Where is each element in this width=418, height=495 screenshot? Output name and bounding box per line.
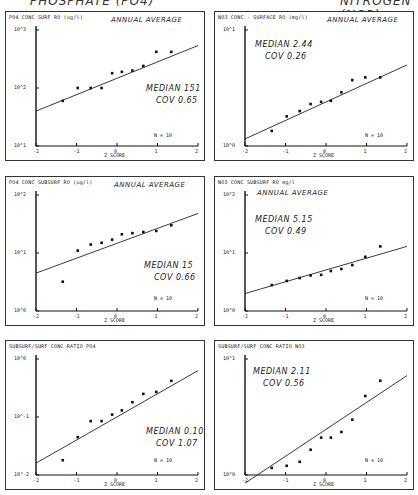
n-label: N = 10 <box>154 132 172 138</box>
x-axis-title: Z SCORE <box>313 481 334 487</box>
y-tick-label: 10^0 <box>14 355 26 361</box>
x-tick-label: 1 <box>364 313 367 319</box>
data-point <box>379 245 382 248</box>
chart-panel-6: SUBSURF/SURF CONC RATIO NO3MEDIAN 2.11CO… <box>214 340 414 490</box>
data-point <box>330 270 333 273</box>
n-label: N = 10 <box>365 457 383 463</box>
x-tick-label: -2 <box>33 477 39 483</box>
data-point <box>320 101 323 104</box>
data-point <box>351 418 354 421</box>
data-point <box>76 436 79 439</box>
y-tick-label: 10^3 <box>14 26 26 32</box>
x-axis-title: Z SCORE <box>313 152 334 158</box>
x-axis-title: Z SCORE <box>313 317 334 323</box>
x-tick-label: 2 <box>195 313 198 319</box>
x-tick-label: 2 <box>404 313 407 319</box>
data-point <box>89 243 92 246</box>
n-label: N = 10 <box>154 295 172 301</box>
x-tick-label: -2 <box>242 313 248 319</box>
data-point <box>170 380 173 383</box>
data-point <box>270 467 273 470</box>
y-tick-label: 10^0 <box>14 307 26 313</box>
data-point <box>170 224 173 227</box>
y-tick-label: 10^1 <box>14 249 26 255</box>
y-tick-label: 10^-1 <box>14 413 29 419</box>
data-point <box>76 249 79 252</box>
data-point <box>364 76 367 79</box>
x-tick-label: -1 <box>283 313 289 319</box>
chart-panel-4: NO3 CONC SUBSURF RO mg/lANNUAL AVERAGEME… <box>214 176 414 326</box>
data-point <box>364 395 367 398</box>
chart-panel-5: SUBSURF/SURF CONC RATIO PO4MEDIAN 0.10CO… <box>5 340 205 490</box>
x-tick-label: 2 <box>195 148 198 154</box>
x-axis-title: Z SCORE <box>104 152 125 158</box>
data-point <box>61 280 64 283</box>
data-point <box>121 233 124 236</box>
median-label: MEDIAN 2.44 <box>255 40 313 49</box>
regression-line <box>245 246 407 293</box>
chart-panel-1: PO4 CONC SURF RO (ug/l)ANNUAL AVERAGEMED… <box>5 11 205 161</box>
data-point <box>285 465 288 468</box>
x-tick-label: -1 <box>283 477 289 483</box>
y-tick-label: 10^2 <box>14 191 26 197</box>
data-point <box>309 448 312 451</box>
x-tick-label: 2 <box>195 477 198 483</box>
data-point <box>100 420 103 423</box>
y-tick-label: 10^2 <box>223 191 235 197</box>
data-point <box>320 436 323 439</box>
panel-subtitle: ANNUAL AVERAGE <box>327 16 398 24</box>
data-point <box>340 268 343 271</box>
cov-label: COV 0.66 <box>154 273 196 282</box>
data-point <box>330 100 333 103</box>
data-point <box>131 232 134 235</box>
data-point <box>131 401 134 404</box>
x-tick-label: -1 <box>74 148 80 154</box>
chart-panel-3: PO4 CONC SUBSURF RO (ug/l)ANNUAL AVERAGE… <box>5 176 205 326</box>
x-tick-label: 1 <box>155 148 158 154</box>
data-point <box>340 91 343 94</box>
data-point <box>142 231 145 234</box>
chart-plot <box>6 177 206 327</box>
data-point <box>111 72 114 75</box>
panel-title: NO3 CONC - SURFACE RO (mg/l) <box>218 14 308 20</box>
data-point <box>298 110 301 113</box>
median-label: MEDIAN 15 <box>144 261 193 270</box>
data-point <box>309 103 312 106</box>
data-point <box>155 51 158 54</box>
data-point <box>89 87 92 90</box>
data-point <box>111 413 114 416</box>
data-point <box>351 264 354 267</box>
median-label: MEDIAN 2.11 <box>253 367 311 376</box>
x-tick-label: -1 <box>74 313 80 319</box>
data-point <box>142 65 145 68</box>
chart-plot <box>6 341 206 491</box>
data-point <box>364 255 367 258</box>
data-point <box>61 459 64 462</box>
y-tick-label: 10^0 <box>223 307 235 313</box>
x-tick-label: 1 <box>364 148 367 154</box>
data-point <box>155 230 158 233</box>
y-tick-label: 10^1 <box>223 249 235 255</box>
data-point <box>121 409 124 412</box>
data-point <box>320 274 323 277</box>
y-tick-label: 10^2 <box>14 84 26 90</box>
data-point <box>100 87 103 90</box>
cov-label: COV 1.07 <box>156 439 198 448</box>
panel-title: PO4 CONC SURF RO (ug/l) <box>9 14 83 20</box>
data-point <box>270 130 273 133</box>
chart-plot <box>215 177 415 327</box>
y-tick-label: 10^0 <box>223 142 235 148</box>
cov-label: COV 0.56 <box>263 379 305 388</box>
x-tick-label: 2 <box>404 477 407 483</box>
regression-line <box>36 371 198 464</box>
data-point <box>330 436 333 439</box>
x-tick-label: -2 <box>33 313 39 319</box>
data-point <box>76 87 79 90</box>
data-point <box>131 69 134 72</box>
y-tick-label: 10^1 <box>223 355 235 361</box>
x-tick-label: -2 <box>242 477 248 483</box>
data-point <box>89 420 92 423</box>
data-point <box>309 274 312 277</box>
data-point <box>298 277 301 280</box>
data-point <box>61 100 64 103</box>
